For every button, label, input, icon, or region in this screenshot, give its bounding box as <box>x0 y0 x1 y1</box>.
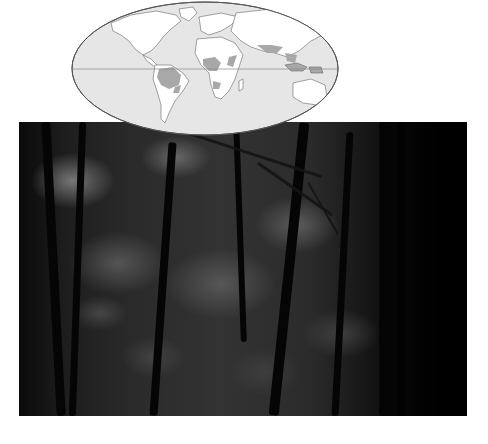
tree-trunk <box>69 122 86 416</box>
world-rainforest-map <box>71 1 339 136</box>
rainforest-photo <box>19 122 467 416</box>
hanging-vine <box>307 182 339 235</box>
tree-trunk <box>41 122 65 416</box>
shadow-region <box>397 122 467 416</box>
new-zealand <box>329 101 335 111</box>
tree-trunk <box>149 142 176 416</box>
tree-trunk <box>332 132 354 416</box>
new-guinea <box>309 67 323 73</box>
madagascar <box>239 79 243 91</box>
tree-trunk <box>233 122 247 342</box>
